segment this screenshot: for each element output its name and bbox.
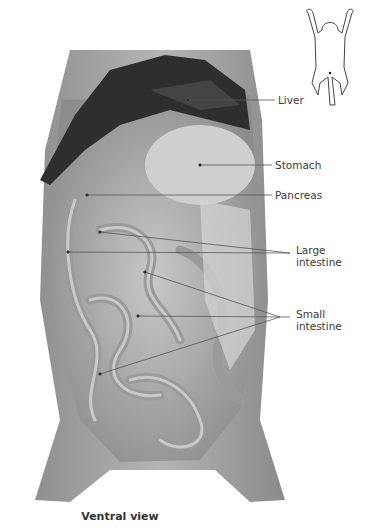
- label-small-intestine-line1: Small: [296, 308, 342, 320]
- label-stomach: Stomach: [275, 159, 321, 171]
- label-pancreas: Pancreas: [275, 189, 322, 201]
- label-large-intestine-line2: intestine: [296, 256, 342, 268]
- rat-outline-icon: [300, 5, 360, 110]
- label-large-intestine: Large intestine: [296, 244, 342, 268]
- figure-caption: Ventral view: [0, 510, 250, 523]
- label-small-intestine: Small intestine: [296, 308, 342, 332]
- label-small-intestine-line2: intestine: [296, 320, 342, 332]
- label-liver: Liver: [278, 94, 304, 106]
- label-large-intestine-line1: Large: [296, 244, 342, 256]
- caption-text: Ventral view: [81, 510, 158, 523]
